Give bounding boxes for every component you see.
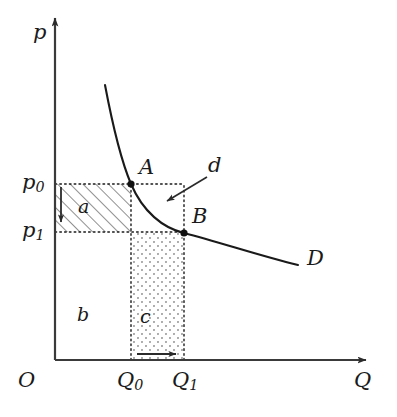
x-tick-q1-sub: 1	[189, 377, 198, 393]
y-tick-p0-main: p	[22, 170, 35, 194]
y-tick-p1-sub: 1	[35, 227, 44, 243]
x-tick-q0-main: Q	[117, 368, 134, 392]
point-b-label: B	[192, 206, 207, 227]
x-tick-q1: Q1	[172, 370, 198, 392]
point-a-marker	[127, 180, 134, 187]
demand-pointer-arrow	[167, 177, 207, 201]
y-axis-label: p	[33, 22, 46, 43]
x-axis-label: Q	[354, 370, 371, 391]
region-b-label: b	[77, 305, 89, 324]
y-tick-p0: p0	[22, 172, 45, 194]
origin-label: O	[18, 370, 35, 391]
region-a-fill	[55, 184, 131, 232]
region-a-label: a	[78, 197, 89, 216]
point-a-label: A	[139, 157, 154, 178]
demand-curve-label: D	[307, 248, 324, 269]
demand-curve-figure: p Q O p0 p1 Q0 Q1 A B D d a b c	[0, 0, 397, 417]
y-tick-p1: p1	[22, 220, 45, 242]
region-c-label: c	[140, 307, 151, 326]
shift-annotation-label: d	[208, 155, 221, 176]
x-tick-q0-sub: 0	[134, 377, 143, 393]
x-tick-q1-main: Q	[172, 368, 189, 392]
region-c-fill	[131, 232, 184, 360]
x-tick-q0: Q0	[117, 370, 143, 392]
point-b-marker	[180, 229, 187, 236]
y-tick-p1-main: p	[22, 218, 35, 242]
y-tick-p0-sub: 0	[35, 179, 44, 195]
